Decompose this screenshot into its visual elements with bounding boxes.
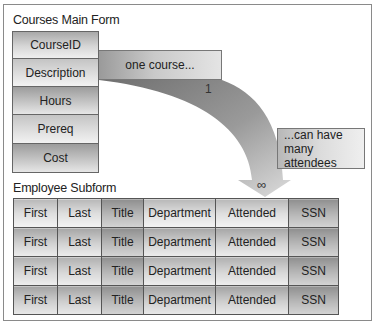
table-row: First Last Title Department Attended SSN xyxy=(14,257,339,286)
many-marker: ∞ xyxy=(257,177,266,192)
cell-ssn: SSN xyxy=(289,199,339,228)
subform-title: Employee Subform xyxy=(13,181,116,195)
employee-subform-table: First Last Title Department Attended SSN… xyxy=(13,198,339,315)
field-cost: Cost xyxy=(12,143,99,173)
many-label-line1: ...can have xyxy=(284,128,343,142)
one-course-label: one course... xyxy=(125,58,194,72)
cell-department: Department xyxy=(144,286,216,315)
cell-ssn: SSN xyxy=(289,228,339,257)
main-form-title: Courses Main Form xyxy=(13,13,119,27)
cell-last: Last xyxy=(58,228,102,257)
many-label-line2: many attendees xyxy=(284,142,364,170)
cell-title: Title xyxy=(102,199,144,228)
cell-first: First xyxy=(14,286,58,315)
cell-department: Department xyxy=(144,199,216,228)
cell-ssn: SSN xyxy=(289,257,339,286)
cell-title: Title xyxy=(102,228,144,257)
one-course-callout: one course... xyxy=(99,50,222,80)
cell-first: First xyxy=(14,257,58,286)
field-description: Description xyxy=(12,58,99,87)
cell-attended: Attended xyxy=(216,286,289,315)
cell-last: Last xyxy=(58,257,102,286)
table-row: First Last Title Department Attended SSN xyxy=(14,228,339,257)
cell-attended: Attended xyxy=(216,199,289,228)
field-hours: Hours xyxy=(12,86,99,115)
cell-first: First xyxy=(14,228,58,257)
field-course-id: CourseID xyxy=(12,31,99,59)
table-row: First Last Title Department Attended SSN xyxy=(14,286,339,315)
cell-attended: Attended xyxy=(216,257,289,286)
many-attendees-callout: ...can have many attendees xyxy=(277,128,365,169)
cell-title: Title xyxy=(102,286,144,315)
cell-last: Last xyxy=(58,199,102,228)
cell-department: Department xyxy=(144,228,216,257)
cell-attended: Attended xyxy=(216,228,289,257)
field-prereq: Prereq xyxy=(12,114,99,144)
cell-last: Last xyxy=(58,286,102,315)
cell-department: Department xyxy=(144,257,216,286)
one-marker: 1 xyxy=(205,82,212,96)
cell-title: Title xyxy=(102,257,144,286)
cell-ssn: SSN xyxy=(289,286,339,315)
table-row: First Last Title Department Attended SSN xyxy=(14,199,339,228)
cell-first: First xyxy=(14,199,58,228)
